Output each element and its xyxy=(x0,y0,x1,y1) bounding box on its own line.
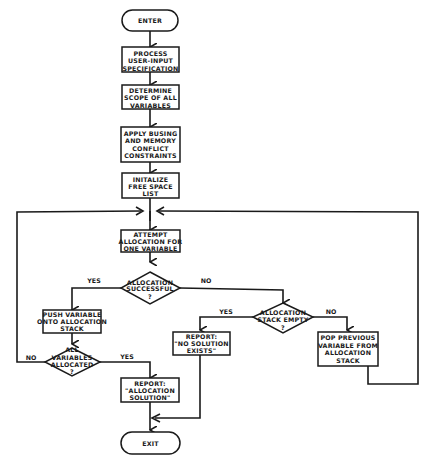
attempt-allocation-box: ATTEMPT ALLOCATION FOR ONE VARIABLE xyxy=(119,230,183,252)
successful-yes-label: YES xyxy=(86,277,101,284)
svg-text:SCOPE OF ALL: SCOPE OF ALL xyxy=(124,94,177,101)
stack-empty-no-label: NO xyxy=(326,308,337,315)
svg-text:SPECIFICATION: SPECIFICATION xyxy=(123,65,179,72)
svg-text:ONE VARIABLE: ONE VARIABLE xyxy=(123,245,177,252)
apply-constraints-box: APPLY BUSING AND MEMORY CONFLICT CONSTRA… xyxy=(121,127,180,162)
svg-text:?: ? xyxy=(281,324,285,331)
all-allocated-yes-label: YES xyxy=(119,353,134,360)
svg-text:SUCCESSFUL: SUCCESSFUL xyxy=(126,285,173,292)
process-input-box: PROCESS USER-INPUT SPECIFICATION xyxy=(122,47,179,72)
all-allocated-no-label: NO xyxy=(26,354,37,361)
determine-scope-box: DETERMINE SCOPE OF ALL VARIABLES xyxy=(122,85,179,109)
stack-empty-decision: ALLOCATION STACK EMPTY ? xyxy=(253,303,313,333)
report-solution-box: REPORT: "ALLOCATION SOLUTION" xyxy=(121,378,179,402)
svg-text:SOLUTION": SOLUTION" xyxy=(129,394,170,401)
svg-text:EXISTS": EXISTS" xyxy=(187,347,217,354)
svg-text:ALLOCATION FOR: ALLOCATION FOR xyxy=(119,238,183,245)
svg-text:STACK EMPTY: STACK EMPTY xyxy=(257,316,308,323)
svg-text:STACK: STACK xyxy=(336,357,361,364)
svg-text:ATTEMPT: ATTEMPT xyxy=(134,231,169,238)
pop-previous-box: POP PREVIOUS VARIABLE FROM ALLOCATION ST… xyxy=(318,332,378,366)
svg-text:VARIABLE FROM: VARIABLE FROM xyxy=(318,342,378,349)
svg-text:LIST: LIST xyxy=(143,190,159,197)
flowchart-canvas: ENTER PROCESS USER-INPUT SPECIFICATION D… xyxy=(0,0,431,464)
svg-text:STACK: STACK xyxy=(60,325,85,332)
svg-text:PROCESS: PROCESS xyxy=(134,50,168,57)
svg-text:USER-INPUT: USER-INPUT xyxy=(128,57,174,64)
svg-text:ALLOCATED: ALLOCATED xyxy=(51,361,94,368)
successful-no-label: NO xyxy=(201,277,212,284)
svg-text:PUSH VARIABLE: PUSH VARIABLE xyxy=(43,311,102,318)
report-no-solution-box: REPORT: "NO SOLUTION EXISTS" xyxy=(173,332,230,355)
svg-text:ENTER: ENTER xyxy=(138,17,162,24)
svg-text:ALLOCATION: ALLOCATION xyxy=(325,349,371,356)
svg-text:DETERMINE: DETERMINE xyxy=(129,87,172,94)
stack-empty-yes-label: YES xyxy=(218,308,233,315)
allocation-successful-decision: ALLOCATION SUCCESSFUL ? xyxy=(121,272,180,304)
svg-text:"NO SOLUTION: "NO SOLUTION xyxy=(174,340,229,347)
svg-text:INITALIZE: INITALIZE xyxy=(133,176,169,183)
svg-text:ONTO ALLOCATION: ONTO ALLOCATION xyxy=(37,318,107,325)
svg-text:POP PREVIOUS: POP PREVIOUS xyxy=(320,334,375,341)
svg-text:?: ? xyxy=(70,368,74,375)
svg-text:APPLY BUSING: APPLY BUSING xyxy=(124,130,178,137)
svg-text:ALL: ALL xyxy=(65,346,79,353)
svg-text:FREE SPACE: FREE SPACE xyxy=(128,183,172,190)
svg-text:AND MEMORY: AND MEMORY xyxy=(125,137,176,144)
svg-text:REPORT:: REPORT: xyxy=(134,380,166,387)
svg-text:CONSTRAINTS: CONSTRAINTS xyxy=(124,152,177,159)
svg-text:REPORT:: REPORT: xyxy=(186,333,218,340)
svg-text:VARIABLES: VARIABLES xyxy=(130,102,171,109)
svg-text:VARIABLES: VARIABLES xyxy=(52,354,93,361)
exit-terminal: EXIT xyxy=(121,432,180,454)
svg-text:"ALLOCATION: "ALLOCATION xyxy=(125,387,175,394)
init-free-space-box: INITALIZE FREE SPACE LIST xyxy=(122,173,179,198)
svg-text:EXIT: EXIT xyxy=(142,440,159,447)
push-variable-box: PUSH VARIABLE ONTO ALLOCATION STACK xyxy=(37,310,107,333)
enter-terminal: ENTER xyxy=(122,10,178,31)
svg-text:CONFLICT: CONFLICT xyxy=(132,145,169,152)
svg-text:?: ? xyxy=(148,293,152,300)
all-allocated-decision: ALL VARIABLES ALLOCATED ? xyxy=(45,346,100,376)
